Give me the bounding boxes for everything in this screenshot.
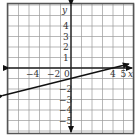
y-tick-label: 3 <box>63 32 69 42</box>
y-axis-label: y <box>61 5 68 15</box>
x-tick-label: −4 <box>26 69 40 79</box>
y-tick-label: 2 <box>63 42 69 52</box>
y-tick-label: −2 <box>59 84 72 94</box>
x-tick-label: 5 <box>121 69 127 79</box>
x-tick-label: 0 <box>64 69 70 79</box>
x-tick-label: 4 <box>110 69 116 79</box>
y-tick-label: −5 <box>59 116 73 126</box>
y-tick-label: 1 <box>63 53 69 63</box>
y-tick-label: −3 <box>59 95 73 105</box>
x-axis-label: x <box>128 69 133 79</box>
coordinate-plane: −4−20454321−2−3−4−5 x y <box>0 0 140 137</box>
x-tick-label: −2 <box>47 69 60 79</box>
y-tick-label: 4 <box>63 21 69 31</box>
y-tick-label: −4 <box>59 105 73 115</box>
